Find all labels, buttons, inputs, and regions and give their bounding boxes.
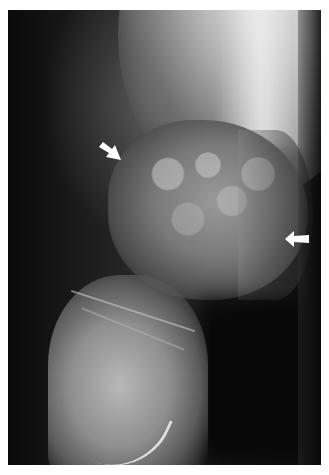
arrow-down-right-icon [99,142,123,162]
xray-image [8,10,321,465]
arrow-left-icon [285,231,310,248]
